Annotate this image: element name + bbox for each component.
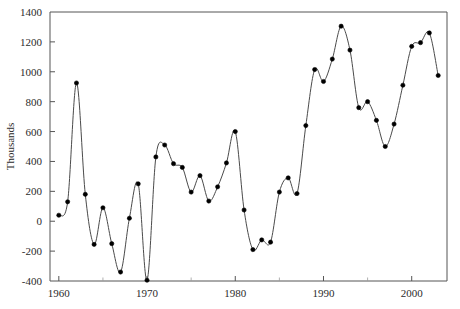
- y-tick-label: 600: [26, 126, 43, 138]
- data-point: [260, 238, 264, 242]
- data-point: [154, 155, 158, 159]
- timeseries-chart: -400-2000200400600800100012001400 196019…: [0, 0, 460, 309]
- data-point: [216, 185, 220, 189]
- y-axis-title: Thousands: [4, 123, 16, 171]
- data-point: [418, 41, 422, 45]
- data-point: [251, 248, 255, 252]
- data-point: [110, 242, 114, 246]
- data-point: [374, 118, 378, 122]
- y-tick-label: 1200: [20, 36, 43, 48]
- data-point: [339, 24, 343, 28]
- data-point: [383, 144, 387, 148]
- data-point: [436, 73, 440, 77]
- data-point: [242, 208, 246, 212]
- data-point: [392, 122, 396, 126]
- data-point: [136, 182, 140, 186]
- data-point: [163, 143, 167, 147]
- data-point: [295, 191, 299, 195]
- data-point: [304, 123, 308, 127]
- data-point: [198, 174, 202, 178]
- data-point: [286, 176, 290, 180]
- y-tick-label: 400: [26, 155, 43, 167]
- data-point: [92, 242, 96, 246]
- data-point: [313, 67, 317, 71]
- data-point: [348, 48, 352, 52]
- data-point: [277, 190, 281, 194]
- x-tick-label: 1980: [224, 287, 247, 299]
- chart-figure: -400-2000200400600800100012001400 196019…: [0, 0, 460, 309]
- data-point: [180, 165, 184, 169]
- y-tick-label: 800: [26, 96, 43, 108]
- data-point: [401, 83, 405, 87]
- chart-background: [0, 0, 460, 309]
- data-point: [118, 270, 122, 274]
- data-point: [233, 129, 237, 133]
- y-tick-label: 200: [26, 185, 43, 197]
- y-tick-label: 1000: [20, 66, 43, 78]
- data-point: [66, 200, 70, 204]
- data-point: [330, 57, 334, 61]
- y-tick-label: 0: [37, 215, 43, 227]
- data-point: [410, 44, 414, 48]
- data-point: [321, 79, 325, 83]
- data-point: [74, 81, 78, 85]
- x-tick-label: 2000: [401, 287, 424, 299]
- y-tick-label: -400: [22, 275, 43, 287]
- data-point: [145, 278, 149, 282]
- data-point: [189, 190, 193, 194]
- data-point: [268, 240, 272, 244]
- data-point: [101, 206, 105, 210]
- y-tick-label: 1400: [20, 6, 43, 18]
- x-tick-label: 1990: [312, 287, 335, 299]
- data-point: [171, 162, 175, 166]
- x-tick-label: 1960: [48, 287, 71, 299]
- data-point: [127, 216, 131, 220]
- data-point: [224, 161, 228, 165]
- axis-title-group: Thousands: [4, 123, 16, 171]
- data-point: [57, 213, 61, 217]
- y-tick-label: -200: [22, 245, 43, 257]
- data-point: [427, 31, 431, 35]
- data-point: [366, 100, 370, 104]
- data-point: [207, 199, 211, 203]
- x-tick-label: 1970: [136, 287, 159, 299]
- data-point: [83, 192, 87, 196]
- data-point: [357, 106, 361, 110]
